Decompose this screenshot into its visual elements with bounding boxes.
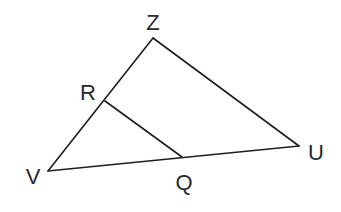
label-q: Q [175,170,192,195]
triangle-diagram: Z R V Q U [0,0,341,212]
segment-zu [153,38,299,146]
segment-vz [48,38,153,171]
label-r: R [80,80,96,105]
label-v: V [26,164,41,189]
segment-uv [48,146,299,171]
segment-rq [105,101,182,157]
label-z: Z [146,10,159,35]
label-u: U [308,140,324,165]
